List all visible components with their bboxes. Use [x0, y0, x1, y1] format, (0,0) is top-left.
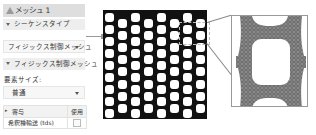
pattern-cell — [157, 97, 166, 106]
pattern-cell — [118, 31, 127, 40]
pattern-cell — [196, 67, 205, 76]
pattern-cell — [183, 61, 192, 70]
pattern-cell — [183, 13, 192, 22]
contribution-table: ▸ 寄与 使用 希釈種輸送 (tds) — [3, 105, 87, 129]
pattern-cell — [157, 61, 166, 70]
dropdown-arrow-icon — [75, 46, 79, 49]
mesh-title-bar: メッシュ 1 — [3, 4, 85, 17]
pattern-cell — [144, 80, 153, 89]
pattern-cell — [183, 49, 192, 58]
element-size-dropdown[interactable]: 普通 — [3, 86, 85, 99]
pattern-cell — [170, 67, 179, 76]
mesh-title: メッシュ 1 — [15, 6, 50, 15]
section-label: フィジックス制御メッシュ — [14, 60, 98, 68]
mesh-detail-svg — [232, 16, 308, 107]
pattern-cell — [196, 104, 205, 113]
dropdown-arrow-icon — [75, 92, 79, 95]
pattern-cell — [131, 97, 140, 106]
pattern-cell — [170, 19, 179, 28]
pattern-cell — [131, 13, 140, 22]
pattern-cell — [118, 19, 127, 28]
pattern-cell — [144, 31, 153, 40]
pattern-cell — [170, 55, 179, 64]
pattern-cell — [157, 13, 166, 22]
pattern-cell — [183, 73, 192, 82]
pattern-cell — [131, 61, 140, 70]
pattern-cell — [105, 61, 114, 70]
pattern-cell — [196, 80, 205, 89]
pattern-cell — [144, 92, 153, 101]
row-use-cell — [67, 118, 86, 128]
pattern-cell — [118, 104, 127, 113]
pattern-cell — [105, 13, 114, 22]
pattern-cell — [144, 67, 153, 76]
pattern-cell — [105, 109, 114, 118]
table-row[interactable]: 希釈種輸送 (tds) — [4, 118, 86, 128]
section-physics-controlled-mesh[interactable]: フィジックス制御メッシュ — [3, 58, 85, 70]
pattern-cell — [144, 55, 153, 64]
pattern-cell — [131, 25, 140, 34]
pattern-cell — [157, 25, 166, 34]
sequence-type-value: フィジックス制御メッシュ — [8, 43, 92, 51]
pattern-cell — [118, 92, 127, 101]
pattern-cell — [157, 73, 166, 82]
pattern-cell — [183, 85, 192, 94]
warning-triangle-icon — [6, 7, 14, 14]
sequence-type-dropdown[interactable]: フィジックス制御メッシュ — [3, 40, 85, 53]
pattern-cell — [144, 104, 153, 113]
pattern-cell — [157, 37, 166, 46]
pattern-cell — [157, 85, 166, 94]
column-header-contribution[interactable]: ▸ 寄与 — [4, 106, 67, 117]
element-size-label: 要素サイズ: — [3, 75, 86, 85]
pattern-cell — [105, 85, 114, 94]
pattern-cell — [170, 92, 179, 101]
pattern-cell — [170, 31, 179, 40]
pattern-cell — [170, 43, 179, 52]
pattern-cell — [157, 49, 166, 58]
row-name: 希釈種輸送 (tds) — [4, 118, 67, 128]
pattern-cell — [118, 80, 127, 89]
use-checkbox[interactable] — [73, 119, 81, 127]
pattern-cell — [170, 104, 179, 113]
pattern-cell — [170, 80, 179, 89]
zoom-leader-line-top — [207, 15, 231, 23]
pattern-cell — [131, 85, 140, 94]
pattern-cell — [131, 37, 140, 46]
caret-down-icon — [6, 23, 10, 26]
pattern-cell — [131, 109, 140, 118]
caret-down-icon — [6, 62, 10, 65]
sort-icon: ▸ — [5, 104, 8, 116]
pattern-cell — [157, 109, 166, 118]
pattern-cell — [105, 25, 114, 34]
pattern-cell — [196, 55, 205, 64]
pattern-cell — [105, 37, 114, 46]
pattern-cell — [118, 67, 127, 76]
pattern-cell — [105, 49, 114, 58]
pattern-cell — [183, 97, 192, 106]
pattern-cell — [144, 19, 153, 28]
element-size-value: 普通 — [12, 89, 26, 97]
pattern-cell — [118, 43, 127, 52]
table-header: ▸ 寄与 使用 — [4, 106, 86, 118]
pattern-cell — [131, 73, 140, 82]
section-label: シーケンスタイプ — [14, 20, 70, 28]
pattern-cell — [183, 109, 192, 118]
column-header-use[interactable]: 使用 — [67, 106, 86, 117]
pattern-cell — [105, 73, 114, 82]
pattern-cell — [131, 49, 140, 58]
pattern-cell — [118, 55, 127, 64]
pattern-cell — [105, 97, 114, 106]
section-sequence-type[interactable]: シーケンスタイプ — [3, 19, 85, 30]
pattern-cell — [144, 43, 153, 52]
zoom-region-box — [179, 22, 210, 45]
mesh-detail-view[interactable] — [231, 15, 308, 107]
pattern-cell — [196, 92, 205, 101]
